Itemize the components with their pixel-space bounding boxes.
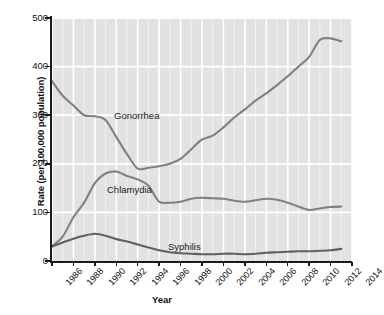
x-tick-mark: [94, 262, 96, 266]
series-label-chlamydia: Chlamydia: [107, 184, 152, 195]
y-axis-tick-labels: 5004003002001000: [10, 0, 48, 315]
x-tick-label: 1994: [149, 266, 170, 287]
y-tick-mark: [45, 260, 50, 262]
x-tick-mark: [116, 262, 118, 266]
plot-area: Gonorrhea Chlamydia Syphilis: [52, 18, 352, 261]
x-tick-mark: [137, 262, 139, 266]
series-label-syphilis: Syphilis: [168, 241, 201, 252]
x-tick-label: 1990: [106, 266, 127, 287]
x-tick-label: 2008: [299, 266, 320, 287]
y-tick-label: 0: [16, 255, 48, 266]
y-tick-label: 200: [16, 157, 48, 168]
x-tick-label: 2002: [235, 266, 256, 287]
x-tick-label: 1986: [63, 266, 84, 287]
x-tick-mark: [73, 262, 75, 266]
y-tick-mark: [45, 66, 50, 68]
x-tick-label: 1992: [128, 266, 149, 287]
y-tick-label: 500: [16, 12, 48, 23]
x-tick-label: 2004: [256, 266, 277, 287]
x-tick-label: 1996: [171, 266, 192, 287]
x-tick-mark: [244, 262, 246, 266]
x-tick-mark: [180, 262, 182, 266]
x-tick-mark: [201, 262, 203, 266]
x-axis-title: Year: [52, 294, 272, 305]
x-tick-mark: [330, 262, 332, 266]
x-tick-mark: [158, 262, 160, 266]
y-tick-label: 100: [16, 206, 48, 217]
x-tick-label: 1988: [85, 266, 106, 287]
y-tick-label: 400: [16, 60, 48, 71]
y-tick-mark: [45, 114, 50, 116]
x-tick-mark: [223, 262, 225, 266]
y-tick-label: 300: [16, 109, 48, 120]
x-tick-label: 2000: [213, 266, 234, 287]
x-tick-label: 2006: [278, 266, 299, 287]
x-tick-label: 2014: [363, 266, 384, 287]
plot-svg: [52, 18, 352, 261]
x-tick-label: 1998: [192, 266, 213, 287]
y-tick-mark: [45, 17, 50, 19]
x-tick-label: 2010: [321, 266, 342, 287]
x-tick-mark: [308, 262, 310, 266]
x-tick-mark: [287, 262, 289, 266]
x-tick-mark: [351, 262, 353, 266]
x-tick-mark: [266, 262, 268, 266]
x-tick-mark: [51, 262, 53, 266]
series-label-gonorrhea: Gonorrhea: [114, 110, 159, 121]
x-tick-label: 2012: [342, 266, 363, 287]
y-axis-spine: [50, 16, 52, 263]
y-tick-mark: [45, 163, 50, 165]
y-tick-mark: [45, 212, 50, 214]
